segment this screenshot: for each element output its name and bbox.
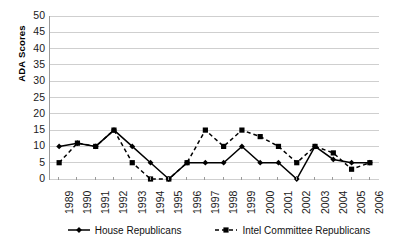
x-axis-tick-label: 2004 (337, 178, 349, 214)
x-axis-tick-label: 2006 (373, 178, 385, 214)
x-axis-tickmark (204, 177, 205, 180)
data-point-marker (111, 128, 116, 133)
legend-label: House Republicans (95, 225, 182, 236)
data-point-marker (312, 144, 317, 149)
x-axis-tickmark (95, 177, 96, 180)
x-axis-tick-label: 1991 (99, 178, 111, 214)
y-axis-tick-label: 20 (21, 108, 45, 119)
data-point-marker (75, 141, 80, 146)
data-point-marker (367, 160, 372, 165)
x-axis-tick-labels: 1989199019911992199319941995199619971998… (49, 180, 378, 216)
y-axis-tick-label: 0 (21, 173, 45, 184)
x-axis-tickmark (113, 177, 114, 180)
data-point-marker (349, 167, 354, 172)
legend-item-2[interactable]: Intel Committee Republicans (215, 225, 370, 236)
x-axis-tick-label: 2003 (319, 178, 331, 214)
x-axis-tick-label: 2001 (282, 178, 294, 214)
x-axis-tickmark (369, 177, 370, 180)
data-point-marker (203, 128, 208, 133)
y-axis-tick-labels: 05101520253035404550 (19, 0, 45, 247)
x-axis-tickmark (277, 177, 278, 180)
data-point-marker (331, 150, 336, 155)
x-axis-tick-label: 1996 (191, 178, 203, 214)
x-axis-tickmark (314, 177, 315, 180)
x-axis-tickmark (168, 177, 169, 180)
x-axis-tick-label: 1994 (154, 178, 166, 214)
data-point-marker (202, 160, 208, 166)
legend-square-marker-icon (215, 225, 237, 235)
x-axis-tickmark (58, 177, 59, 180)
y-axis-tick-label: 40 (21, 43, 45, 54)
x-axis-tickmark (332, 177, 333, 180)
x-axis-tick-label: 2005 (355, 178, 367, 214)
x-axis-tick-label: 2000 (264, 178, 276, 214)
x-axis-tick-label: 1999 (245, 178, 257, 214)
data-point-marker (349, 160, 355, 166)
data-point-marker (239, 128, 244, 133)
x-axis-tick-label: 1989 (63, 178, 75, 214)
data-point-marker (221, 144, 226, 149)
x-axis-tickmark (186, 177, 187, 180)
legend-item-1[interactable]: House Republicans (68, 225, 182, 236)
y-axis-tick-label: 5 (21, 157, 45, 168)
x-axis-tickmark (150, 177, 151, 180)
x-axis-tick-label: 2002 (300, 178, 312, 214)
y-axis-tick-label: 30 (21, 75, 45, 86)
x-axis-tick-label: 1997 (209, 178, 221, 214)
y-axis-tick-label: 25 (21, 92, 45, 103)
x-axis-tickmark (296, 177, 297, 180)
ada-scores-line-chart: ADA Scores 05101520253035404550 19891990… (0, 0, 404, 247)
x-axis-tickmark (259, 177, 260, 180)
data-point-marker (294, 160, 299, 165)
y-axis-tick-label: 50 (21, 10, 45, 21)
x-axis-tick-label: 1990 (81, 178, 93, 214)
series-line-2 (59, 130, 370, 179)
series-layer (50, 16, 379, 179)
legend-label: Intel Committee Republicans (242, 225, 370, 236)
x-axis-tick-label: 1993 (136, 178, 148, 214)
x-axis-tick-label: 1998 (227, 178, 239, 214)
x-axis-tick-label: 1995 (172, 178, 184, 214)
x-axis-tickmark (131, 177, 132, 180)
data-point-marker (93, 144, 98, 149)
x-axis-tick-label: 1992 (117, 178, 129, 214)
x-axis-tickmark (351, 177, 352, 180)
data-point-marker (184, 160, 189, 165)
y-axis-tick-label: 35 (21, 59, 45, 70)
y-axis-tick-label: 45 (21, 26, 45, 37)
data-point-marker (130, 160, 135, 165)
legend-diamond-marker-icon (68, 225, 90, 235)
data-point-marker (57, 160, 62, 165)
y-axis-tick-label: 10 (21, 140, 45, 151)
x-axis-tickmark (241, 177, 242, 180)
x-axis-tickmark (223, 177, 224, 180)
chart-legend: House RepublicansIntel Committee Republi… (49, 220, 389, 240)
plot-area (49, 16, 379, 180)
data-point-marker (56, 144, 62, 150)
data-point-marker (276, 144, 281, 149)
y-axis-tick-label: 15 (21, 124, 45, 135)
x-axis-tickmark (76, 177, 77, 180)
data-point-marker (258, 134, 263, 139)
